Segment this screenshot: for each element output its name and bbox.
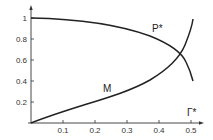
x-tick-label: 0.3 — [121, 126, 133, 135]
chart-svg: 0.2 0.4 0.6 0.8 1 0.1 0.2 0.3 0.4 0.5 P*… — [0, 0, 213, 140]
gamma-star-label: Γ* — [187, 107, 197, 118]
y-tick-label: 0.8 — [16, 35, 28, 44]
x-axis-arrow-icon — [199, 121, 204, 124]
x-tick-label: 0.4 — [153, 126, 165, 135]
x-tick-label: 0.2 — [89, 126, 101, 135]
x-tick-label: 0.1 — [57, 126, 69, 135]
p-star-curve — [31, 18, 193, 81]
y-tick-label: 1 — [23, 14, 28, 23]
y-axis-arrow-icon — [29, 5, 32, 10]
chart: 0.2 0.4 0.6 0.8 1 0.1 0.2 0.3 0.4 0.5 P*… — [0, 0, 213, 140]
p-star-label: P* — [152, 23, 163, 34]
y-tick-label: 0.2 — [16, 98, 28, 107]
x-ticks: 0.1 0.2 0.3 0.4 0.5 — [57, 120, 197, 135]
y-tick-label: 0.4 — [16, 77, 28, 86]
m-label: M — [103, 83, 111, 94]
x-tick-label: 0.5 — [185, 126, 197, 135]
m-curve — [31, 19, 193, 123]
y-tick-label: 0.6 — [16, 56, 28, 65]
